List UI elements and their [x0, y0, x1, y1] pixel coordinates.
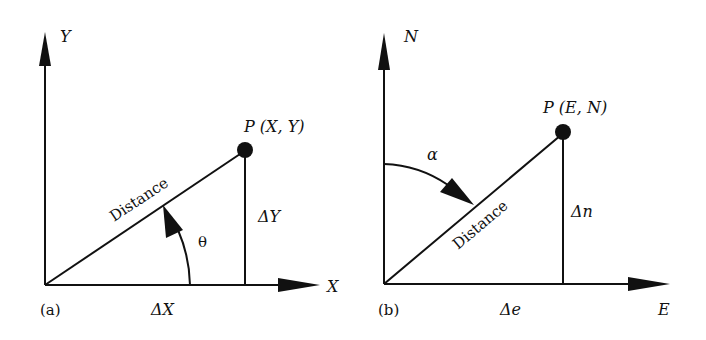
delta-e-label: Δe: [499, 300, 521, 319]
e-axis-label: E: [657, 300, 670, 319]
theta-label: θ: [198, 233, 207, 251]
x-axis-label: X: [325, 277, 339, 296]
point-p-label: P (X, Y): [243, 117, 304, 136]
distance-line: [384, 135, 561, 284]
n-axis-arrowhead-icon: [378, 33, 390, 70]
point-p: [237, 142, 253, 158]
delta-y-label: ΔY: [257, 207, 282, 226]
panel-b-tag: (b): [378, 301, 399, 319]
alpha-arc: [384, 164, 448, 185]
panel-b: [378, 33, 670, 291]
panel-a: [39, 32, 320, 292]
distance-label: Distance: [449, 196, 512, 253]
distance-line: [45, 152, 243, 285]
point-p: [555, 124, 571, 140]
figure: Y X P (X, Y) Distance θ ΔY ΔX (a) N E P …: [0, 0, 706, 340]
theta-arc: [178, 230, 190, 285]
distance-label: Distance: [106, 174, 171, 226]
y-axis-arrowhead-icon: [39, 32, 51, 66]
n-axis-label: N: [403, 27, 419, 46]
x-axis-arrowhead-icon: [278, 278, 320, 292]
panel-a-tag: (a): [40, 301, 61, 319]
delta-n-label: Δn: [570, 202, 593, 221]
alpha-label: α: [427, 145, 438, 164]
y-axis-label: Y: [60, 27, 72, 46]
delta-x-label: ΔX: [150, 300, 175, 319]
point-p-label: P (E, N): [542, 98, 607, 117]
e-axis-arrowhead-icon: [628, 277, 670, 291]
